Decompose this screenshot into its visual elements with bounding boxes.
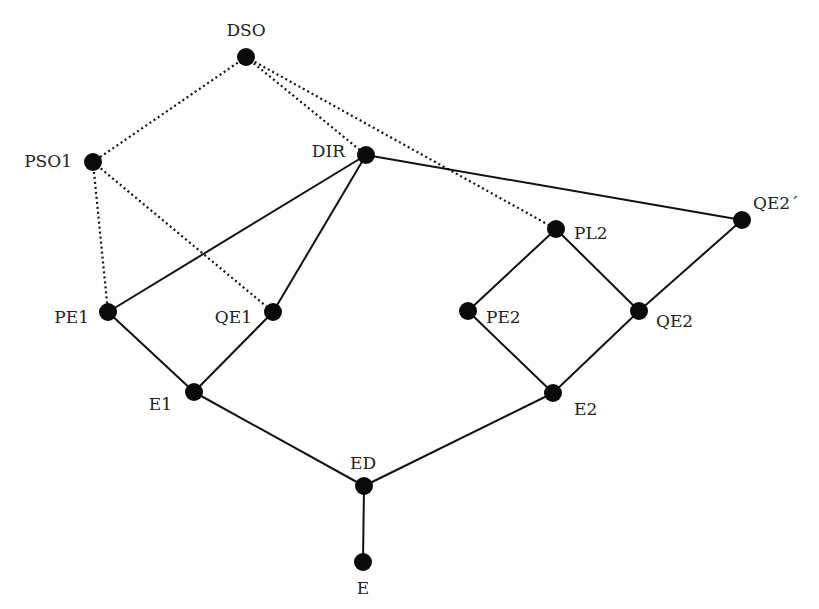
node-label-pe2: PE2 xyxy=(486,307,521,327)
node-label-e2: E2 xyxy=(574,399,597,419)
lattice-diagram: DSOPSO1DIRPL2QE2´PE1QE1PE2QE2E1E2EDE xyxy=(0,0,819,609)
labels-layer: DSOPSO1DIRPL2QE2´PE1QE1PE2QE2E1E2EDE xyxy=(24,20,799,598)
node-label-qe2p: QE2´ xyxy=(753,193,799,213)
node-label-e1: E1 xyxy=(149,394,172,414)
node-ed xyxy=(355,477,373,495)
node-dso xyxy=(237,48,255,66)
node-label-e: E xyxy=(357,578,369,598)
node-pe1 xyxy=(99,303,117,321)
edge-dso-dir xyxy=(246,57,366,155)
edge-pe1-e1 xyxy=(108,312,194,392)
edge-pso1-qe1 xyxy=(93,162,273,312)
node-label-qe1: QE1 xyxy=(215,307,252,327)
node-pe2 xyxy=(459,302,477,320)
nodes-layer xyxy=(84,48,751,571)
node-label-dso: DSO xyxy=(226,20,265,40)
graph-svg: DSOPSO1DIRPL2QE2´PE1QE1PE2QE2E1E2EDE xyxy=(0,0,819,609)
edge-e1-ed xyxy=(194,392,364,486)
edge-pl2-pe2 xyxy=(468,229,556,311)
edge-qe2-e2 xyxy=(553,311,639,393)
node-label-pe1: PE1 xyxy=(54,307,89,327)
edge-dir-qe2p xyxy=(366,155,742,220)
edge-dir-qe1 xyxy=(273,155,366,312)
edge-e2-ed xyxy=(364,393,553,486)
node-qe2 xyxy=(630,302,648,320)
node-label-dir: DIR xyxy=(312,141,346,161)
edge-dir-pe1 xyxy=(108,155,366,312)
node-label-qe2: QE2 xyxy=(656,311,693,331)
node-pso1 xyxy=(84,153,102,171)
node-pl2 xyxy=(547,220,565,238)
node-e xyxy=(354,553,372,571)
node-qe2p xyxy=(733,211,751,229)
node-e2 xyxy=(544,384,562,402)
node-qe1 xyxy=(264,303,282,321)
node-label-pso1: PSO1 xyxy=(24,151,72,171)
node-label-pl2: PL2 xyxy=(574,223,608,243)
node-label-ed: ED xyxy=(350,453,376,473)
edge-pso1-pe1 xyxy=(93,162,108,312)
edge-dso-pl2 xyxy=(246,57,556,229)
edge-dso-pso1 xyxy=(93,57,246,162)
edge-ed-e xyxy=(363,486,364,562)
edge-qe2p-qe2 xyxy=(639,220,742,311)
node-e1 xyxy=(185,383,203,401)
node-dir xyxy=(357,146,375,164)
